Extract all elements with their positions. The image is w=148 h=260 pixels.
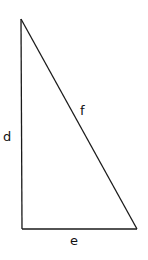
side-f xyxy=(21,19,137,229)
triangle-diagram xyxy=(0,0,148,260)
side-d xyxy=(21,19,22,229)
label-e: e xyxy=(70,234,78,247)
label-d: d xyxy=(3,130,11,143)
label-f: f xyxy=(80,104,85,117)
